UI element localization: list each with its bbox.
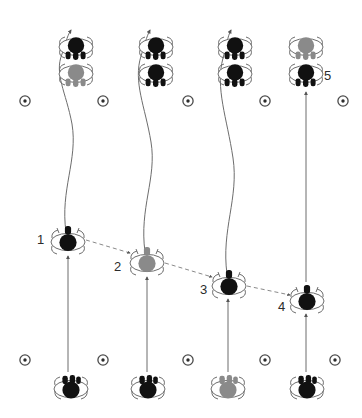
curve-arrow-2	[138, 30, 152, 252]
circle-dot-marker	[20, 355, 30, 365]
circle-dot-marker	[330, 355, 340, 365]
insect-dark	[289, 64, 323, 87]
dashed-arrow-3-4	[247, 286, 290, 295]
middle-insect-4[interactable]	[290, 285, 324, 313]
circle-dot-marker	[260, 96, 270, 106]
insect-dark	[54, 375, 88, 399]
insect-dark	[290, 375, 324, 399]
circle-dot-marker	[20, 96, 30, 106]
middle-insect-3[interactable]	[212, 270, 246, 298]
insect-dark	[290, 285, 324, 313]
top-cluster-1[interactable]	[59, 37, 93, 87]
middle-insect-1[interactable]	[51, 226, 85, 254]
diagram-canvas: 1 2 3 4 5	[0, 0, 362, 418]
dashed-arrow-1-2	[86, 240, 130, 253]
insect-dark	[139, 64, 173, 87]
insect-gray	[59, 64, 93, 87]
insect-dark	[51, 226, 85, 254]
label-5: 5	[324, 69, 331, 82]
circle-dot-marker	[338, 96, 348, 106]
top-cluster-2[interactable]	[139, 37, 173, 87]
bottom-insect-3[interactable]	[211, 375, 245, 399]
insect-gray	[289, 37, 323, 60]
insect-dark	[218, 64, 252, 87]
curve-arrow-1	[59, 30, 73, 232]
insect-gray	[211, 375, 245, 399]
label-1: 1	[37, 233, 44, 246]
dashed-arrow-2-3	[165, 263, 212, 277]
straight-arrow-group	[68, 92, 306, 372]
label-4: 4	[278, 300, 285, 313]
circle-dot-marker	[183, 355, 193, 365]
bottom-insect-4[interactable]	[290, 375, 324, 399]
circle-dot-marker	[183, 96, 193, 106]
label-2: 2	[114, 260, 121, 273]
bottom-insect-1[interactable]	[54, 375, 88, 399]
middle-insect-2[interactable]	[130, 247, 164, 275]
insect-dark	[139, 37, 173, 60]
top-cluster-4[interactable]	[289, 37, 323, 87]
bottom-insect-2[interactable]	[131, 375, 165, 399]
circle-dot-marker	[260, 355, 270, 365]
insect-dark	[131, 375, 165, 399]
insect-dark	[212, 270, 246, 298]
nest-marker-row-top	[20, 96, 348, 106]
insect-gray	[130, 247, 164, 275]
diagram-svg	[0, 0, 362, 418]
insect-dark	[59, 37, 93, 60]
top-cluster-3[interactable]	[218, 37, 252, 87]
label-3: 3	[200, 283, 207, 296]
circle-dot-marker	[98, 355, 108, 365]
circle-dot-marker	[98, 96, 108, 106]
